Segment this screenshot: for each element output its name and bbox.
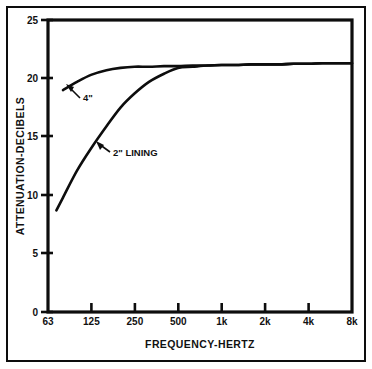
- curve-2-inch-lining: [56, 63, 352, 210]
- y-axis-tick-labels: 25 20 15 10 5 0: [27, 15, 39, 318]
- x-tick-label-63: 63: [42, 316, 54, 327]
- x-tick-label-4k: 4k: [303, 316, 315, 327]
- x-tick-label-250: 250: [127, 316, 144, 327]
- y-tick-label-10: 10: [27, 190, 39, 201]
- attenuation-vs-frequency-chart: 25 20 15 10 5 0 63 125 250 500 1k 2k 4k …: [0, 0, 372, 369]
- annotation-2-inch-lining: 2" LINING: [96, 141, 158, 158]
- y-tick-label-5: 5: [32, 248, 38, 259]
- y-axis-title: ATTENUATION-DECIBELS: [14, 97, 26, 235]
- annotation-label-4-inch: 4": [83, 92, 93, 103]
- x-tick-label-500: 500: [170, 316, 187, 327]
- y-tick-label-25: 25: [27, 15, 39, 26]
- chart-figure: 25 20 15 10 5 0 63 125 250 500 1k 2k 4k …: [0, 0, 372, 369]
- arrow-head-icon: [96, 141, 104, 150]
- y-tick-label-20: 20: [27, 73, 39, 84]
- y-tick-label-15: 15: [27, 131, 39, 142]
- y-tick-label-0: 0: [32, 307, 38, 318]
- x-tick-label-1k: 1k: [216, 316, 228, 327]
- x-tick-label-125: 125: [83, 316, 100, 327]
- x-axis-tick-labels: 63 125 250 500 1k 2k 4k 8k: [42, 316, 358, 327]
- annotation-label-2-inch-lining: 2" LINING: [113, 147, 158, 158]
- x-axis-title: FREQUENCY-HERTZ: [145, 338, 255, 350]
- x-tick-label-8k: 8k: [346, 316, 358, 327]
- annotation-4-inch: 4": [66, 84, 93, 103]
- curve-4-inch: [63, 63, 352, 90]
- x-tick-label-2k: 2k: [260, 316, 272, 327]
